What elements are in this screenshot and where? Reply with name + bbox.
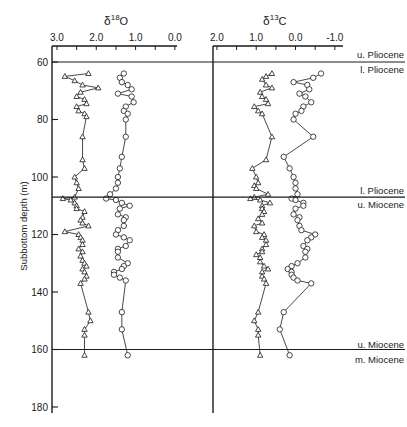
circle-marker	[291, 212, 296, 217]
circle-marker	[301, 203, 306, 208]
circle-marker	[123, 278, 128, 283]
circle-marker	[295, 192, 300, 197]
triangle-marker	[80, 134, 85, 139]
triangle-marker	[74, 180, 79, 185]
circle-marker	[309, 281, 314, 286]
circle-marker	[115, 174, 120, 179]
circle-marker	[125, 111, 130, 116]
x-tick-label: 1.0	[249, 32, 263, 43]
triangle-marker	[255, 180, 260, 185]
circle-marker	[119, 154, 124, 159]
circle-marker	[111, 272, 116, 277]
circle-marker	[309, 100, 314, 105]
circle-marker	[291, 174, 296, 179]
triangle-marker	[86, 71, 91, 76]
triangle-marker	[254, 252, 259, 257]
circle-marker	[119, 327, 124, 332]
triangle-marker	[86, 309, 91, 314]
circle-marker	[293, 180, 298, 185]
circle-marker	[287, 353, 292, 358]
depth-tick-label: 100	[31, 172, 48, 183]
circle-marker	[287, 166, 292, 171]
circle-marker	[311, 134, 316, 139]
circle-marker	[127, 238, 132, 243]
triangle-marker	[82, 166, 87, 171]
depth-tick-label: 180	[31, 402, 48, 413]
circle-marker	[123, 134, 128, 139]
circle-marker	[281, 154, 286, 159]
circle-marker	[121, 217, 126, 222]
circle-marker	[311, 75, 316, 80]
x-tick-label: 2.0	[89, 32, 103, 43]
boundary-label-l-pliocene-bottom: l. Pliocene	[360, 185, 404, 196]
circle-marker	[113, 186, 118, 191]
triangle-marker	[76, 186, 81, 191]
depth-axis: 6080100120140160180	[31, 46, 58, 413]
depth-axis-title: Subbottom depth (m)	[18, 181, 29, 270]
isotope-depth-chart: 6080100120140160180 Subbottom depth (m) …	[0, 0, 407, 427]
panel-title: δ13C	[263, 13, 287, 28]
circle-marker	[117, 166, 122, 171]
circle-marker	[293, 111, 298, 116]
circle-marker	[277, 327, 282, 332]
triangle-marker	[255, 327, 260, 332]
circle-marker	[115, 91, 120, 96]
x-tick-label: 0.0	[168, 32, 182, 43]
circle-marker	[125, 353, 130, 358]
boundary-label-u-miocene-top: u. Miocene	[358, 199, 404, 210]
triangle-marker	[255, 309, 260, 314]
circle-marker	[293, 206, 298, 211]
boundary-label-l-pliocene-top: l. Pliocene	[360, 64, 404, 75]
circle-marker	[117, 206, 122, 211]
depth-tick-label: 140	[31, 287, 48, 298]
circle-marker	[303, 249, 308, 254]
triangle-marker	[269, 71, 274, 76]
circle-marker	[129, 87, 134, 92]
circle-marker	[291, 117, 296, 122]
circle-marker	[299, 227, 304, 232]
circle-marker	[125, 82, 130, 87]
triangle-marker	[82, 352, 87, 357]
circle-marker	[303, 255, 308, 260]
d18o-panel: 3.02.01.00.0δ18O	[50, 13, 182, 358]
x-tick-label: 2.0	[210, 32, 224, 43]
circle-marker	[318, 71, 323, 76]
depth-tick-label: 60	[37, 57, 49, 68]
triangle-marker	[80, 157, 85, 162]
triangle-marker	[265, 191, 270, 196]
circle-marker	[297, 91, 302, 96]
d13c-panel: 2.01.00.0-1.0δ13C	[210, 13, 344, 413]
circle-marker	[123, 117, 128, 122]
circle-marker	[293, 197, 298, 202]
circle-marker	[119, 266, 124, 271]
triangle-marker	[254, 174, 259, 179]
triangle-series-line	[63, 74, 98, 356]
circle-marker	[115, 180, 120, 185]
triangle-marker	[252, 318, 257, 323]
depth-tick-label: 80	[37, 114, 49, 125]
triangle-marker	[250, 166, 255, 171]
x-tick-label: 3.0	[50, 32, 64, 43]
panel-title: δ18O	[104, 13, 129, 28]
triangle-marker	[263, 157, 268, 162]
circle-marker	[293, 186, 298, 191]
triangle-marker	[269, 85, 274, 90]
triangle-marker	[255, 332, 260, 337]
circle-marker	[305, 238, 310, 243]
boundary-label-m-miocene: m. Miocene	[355, 354, 404, 365]
circle-marker	[129, 94, 134, 99]
circle-marker	[121, 71, 126, 76]
circle-marker	[123, 243, 128, 248]
circle-marker	[121, 235, 126, 240]
circle-marker	[307, 87, 312, 92]
depth-tick-label: 160	[31, 344, 48, 355]
triangle-marker	[269, 134, 274, 139]
triangle-marker	[82, 332, 87, 337]
circle-marker	[119, 79, 124, 84]
circle-marker	[107, 192, 112, 197]
circle-marker	[121, 223, 126, 228]
triangle-marker	[257, 352, 262, 357]
circle-marker	[291, 79, 296, 84]
circle-marker	[131, 100, 136, 105]
triangle-marker	[80, 82, 85, 87]
